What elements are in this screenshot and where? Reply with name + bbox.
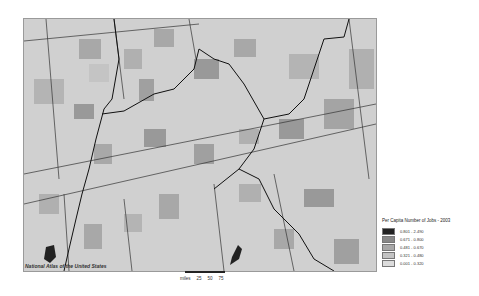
legend-swatch (382, 244, 395, 251)
legend-label: 0.481 - 0.670 (400, 245, 424, 250)
scale-tick-25: 25 (197, 276, 202, 281)
map-legend: Per Capita Number of Jobs - 2003 0.801 -… (382, 218, 477, 267)
legend-label: 0.001 - 0.320 (400, 261, 424, 266)
legend-swatch (382, 236, 395, 243)
legend-label: 0.671 - 0.800 (400, 237, 424, 242)
legend-swatch (382, 260, 395, 267)
legend-title: Per Capita Number of Jobs - 2003 (382, 218, 477, 223)
scale-bar: miles 25 50 75 (180, 270, 240, 286)
scale-labels: miles 25 50 75 (180, 276, 230, 281)
legend-item: 0.671 - 0.800 (382, 235, 477, 243)
scale-segment-1 (185, 271, 198, 273)
legend-swatch (382, 252, 395, 259)
scale-segment-3 (212, 271, 225, 273)
map-graphic (24, 19, 376, 271)
legend-label: 0.801 - 2.490 (400, 229, 424, 234)
legend-item: 0.321 - 0.480 (382, 251, 477, 259)
scale-tick-75: 75 (219, 276, 224, 281)
choropleth-map (23, 18, 377, 272)
county-patches (24, 19, 376, 271)
legend-swatch (382, 228, 395, 235)
scale-unit: miles (180, 276, 191, 281)
legend-label: 0.321 - 0.480 (400, 253, 424, 258)
legend-item: 0.481 - 0.670 (382, 243, 477, 251)
legend-item: 0.801 - 2.490 (382, 227, 477, 235)
scale-segment-2 (198, 271, 212, 273)
scale-tick-50: 50 (208, 276, 213, 281)
map-attribution: National Atlas of the United States (25, 263, 107, 269)
legend-item: 0.001 - 0.320 (382, 259, 477, 267)
